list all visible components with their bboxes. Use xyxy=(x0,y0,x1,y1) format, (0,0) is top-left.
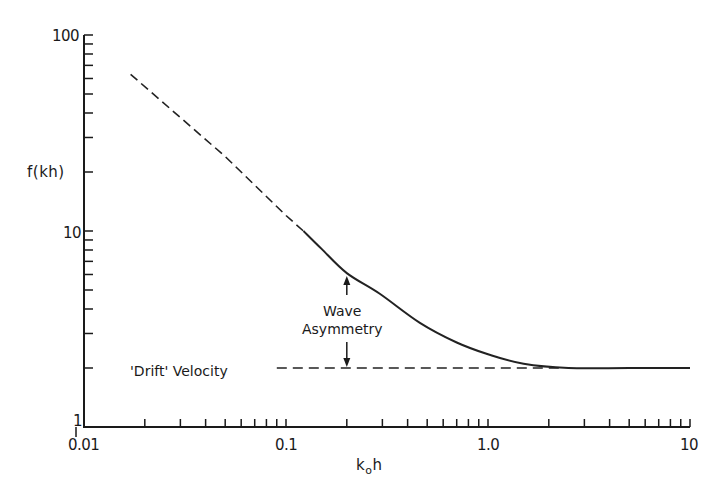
drift-velocity-label: 'Drift' Velocity xyxy=(130,362,228,380)
y-tick-label-1: 1 xyxy=(73,412,82,430)
data-series xyxy=(131,74,690,368)
x-axis-title-h: h xyxy=(372,456,382,474)
x-axis-title: koh xyxy=(356,456,382,474)
y-tick-label-10: 10 xyxy=(63,224,81,242)
series-solid-curve xyxy=(303,231,690,368)
x-tick-label-0.01: 0.01 xyxy=(68,436,99,454)
y-axis-title: f(kh) xyxy=(27,163,65,181)
chart-canvas xyxy=(0,0,718,493)
arrow-head-up xyxy=(343,276,350,285)
y-tick-label-100: 100 xyxy=(52,27,79,45)
x-axis-title-k: k xyxy=(356,456,365,474)
wave-asymmetry-line-2: Asymmetry xyxy=(302,320,383,338)
x-axis-title-subscript: o xyxy=(365,464,372,477)
arrow-head-down xyxy=(343,358,350,367)
x-tick-label-1.0: 1.0 xyxy=(477,436,499,454)
wave-asymmetry-label: Wave Asymmetry xyxy=(302,302,383,338)
x-tick-label-0.1: 0.1 xyxy=(275,436,297,454)
wave-asymmetry-line-1: Wave xyxy=(302,302,383,320)
series-dashed-extrapolation xyxy=(131,74,304,231)
x-tick-label-10: 10 xyxy=(680,436,698,454)
